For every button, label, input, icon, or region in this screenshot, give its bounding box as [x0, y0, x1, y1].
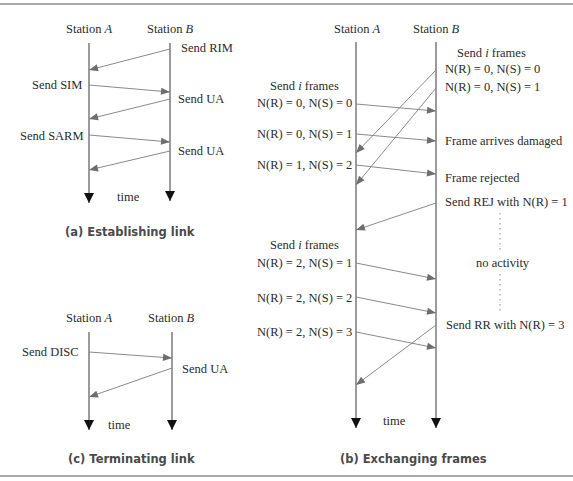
a-send-i-frames-label-2: Send i frames [270, 238, 339, 252]
b-frame-arrow-0 [356, 70, 436, 153]
ua-arrow [89, 368, 172, 397]
panel-terminating-link: Station A Station B time Send DISC Send … [22, 311, 228, 466]
rej-arrow [356, 203, 436, 230]
ua-arrow-2 [89, 151, 170, 170]
send-sim-label: Send SIM [32, 78, 82, 92]
rim-arrow [89, 49, 170, 70]
sim-arrow [89, 85, 170, 92]
send-sarm-label: Send SARM [20, 129, 84, 143]
caption-a: (a) Establishing link [65, 225, 195, 239]
a-frame-label-4: N(R) = 2, N(S) = 2 [257, 291, 352, 305]
station-b-label: Station B [413, 22, 460, 36]
a-frame-arrow-0 [356, 104, 436, 111]
panel-exchanging-frames: Station A Station B time Send i frames N… [257, 22, 568, 466]
send-ua-label: Send UA [182, 362, 228, 376]
send-rej-label: Send REJ with N(R) = 1 [445, 195, 568, 209]
b-frame-label-1: N(R) = 0, N(S) = 1 [445, 80, 540, 94]
station-b-label: Station B [147, 22, 194, 36]
send-rr-label: Send RR with N(R) = 3 [446, 318, 565, 332]
caption-b: (b) Exchanging frames [340, 452, 487, 466]
hdlc-operation-diagram: Station A Station B time Send RIM Send S… [0, 0, 573, 481]
frame-rejected-label: Frame rejected [445, 171, 520, 185]
caption-c: (c) Terminating link [68, 452, 195, 466]
a-frame-label-5: N(R) = 2, N(S) = 3 [257, 325, 352, 339]
station-a-label: Station A [66, 311, 113, 325]
a-frame-label-2: N(R) = 1, N(S) = 2 [257, 158, 352, 172]
time-label: time [117, 190, 140, 204]
b-frame-label-0: N(R) = 0, N(S) = 0 [445, 62, 540, 76]
station-a-label: Station A [334, 22, 381, 36]
sarm-arrow [89, 135, 170, 142]
send-ua-label-1: Send UA [178, 92, 224, 106]
a-frame-arrow-2 [356, 165, 436, 174]
send-rim-label: Send RIM [181, 41, 233, 55]
station-b-label: Station B [148, 311, 195, 325]
send-ua-label-2: Send UA [178, 144, 224, 158]
a-frame-label-3: N(R) = 2, N(S) = 1 [257, 256, 352, 270]
station-a-label: Station A [66, 22, 113, 36]
a-frame-label-0: N(R) = 0, N(S) = 0 [257, 96, 352, 110]
time-label: time [108, 418, 131, 432]
send-disc-label: Send DISC [22, 345, 79, 359]
a-frame-arrow-4 [356, 297, 436, 313]
a-send-i-frames-label-1: Send i frames [270, 79, 339, 93]
b-send-i-frames-label: Send i frames [457, 46, 526, 60]
disc-arrow [89, 352, 172, 358]
a-frame-label-1: N(R) = 0, N(S) = 1 [257, 127, 352, 141]
a-frame-arrow-3 [356, 263, 436, 279]
b-frame-arrow-1 [356, 88, 436, 185]
ua-arrow-1 [89, 99, 170, 119]
no-activity-label: no activity [476, 256, 530, 270]
time-label: time [383, 414, 406, 428]
frame-damaged-label: Frame arrives damaged [445, 134, 563, 148]
panel-establishing-link: Station A Station B time Send RIM Send S… [20, 22, 233, 239]
